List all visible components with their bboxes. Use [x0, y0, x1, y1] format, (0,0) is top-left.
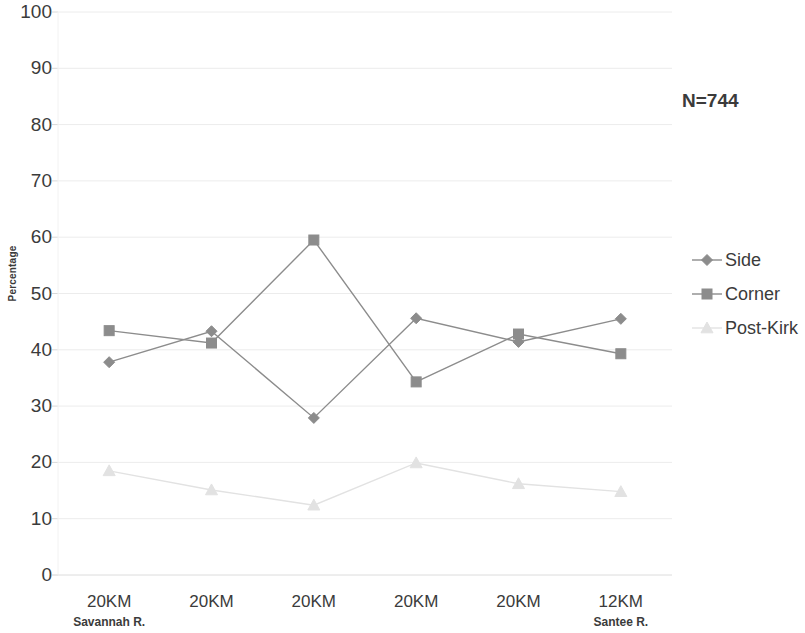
x-axis-tick-label: 20KM [54, 592, 164, 612]
legend-label: Corner [724, 284, 780, 305]
y-axis-tick-label: 70 [8, 171, 52, 190]
x-axis-tick-label: 20KM [157, 592, 267, 612]
data-point-marker [104, 357, 115, 368]
series-side [104, 313, 627, 424]
data-point-marker [103, 465, 115, 476]
data-point-marker [615, 313, 626, 324]
legend-label: Side [724, 250, 761, 271]
data-point-marker [207, 338, 217, 348]
y-axis-tick-label: 80 [8, 115, 52, 134]
y-axis-tick-label: 0 [8, 565, 52, 584]
x-axis-tick-label: 20KM [464, 592, 574, 612]
x-axis-tick-label: 20KM [259, 592, 369, 612]
x-axis-tick-label: 20KM [361, 592, 471, 612]
y-axis-tick-label: 30 [8, 396, 52, 415]
y-axis-tick-label: 90 [8, 58, 52, 77]
legend-item[interactable]: Side [690, 243, 805, 277]
line-chart: 1009080706050403020100 Percentage 20KMSa… [0, 0, 805, 633]
series-line [109, 463, 621, 505]
y-axis-tick-label: 100 [8, 2, 52, 21]
x-axis-group-label: Savannah R. [54, 615, 164, 629]
x-axis-tick-label: 12KM [566, 592, 676, 612]
y-axis-title: Percentage [7, 229, 18, 319]
legend-item[interactable]: Post-Kirk [690, 311, 805, 345]
data-point-marker [309, 235, 319, 245]
chart-legend: SideCornerPost-Kirk [690, 243, 805, 345]
series-line [109, 318, 621, 418]
series-line [109, 240, 621, 382]
y-axis-tick-label: 40 [8, 340, 52, 359]
series-post-kirk [103, 457, 627, 510]
data-point-marker [104, 326, 114, 336]
series-corner [104, 235, 626, 387]
y-axis-tick-label: 10 [8, 509, 52, 528]
legend-label: Post-Kirk [724, 318, 798, 339]
y-axis-tick-label: 20 [8, 452, 52, 471]
x-axis-group-label: Santee R. [566, 615, 676, 629]
data-point-marker [514, 329, 524, 339]
legend-point-marker [702, 289, 712, 299]
legend-point-marker [702, 255, 713, 266]
data-point-marker [616, 349, 626, 359]
legend-marker-square-icon [690, 284, 724, 304]
legend-marker-diamond-icon [690, 250, 724, 270]
legend-item[interactable]: Corner [690, 277, 805, 311]
sample-size-annotation: N=744 [682, 90, 739, 112]
legend-marker-triangle-icon [690, 318, 724, 338]
data-point-marker [411, 377, 421, 387]
